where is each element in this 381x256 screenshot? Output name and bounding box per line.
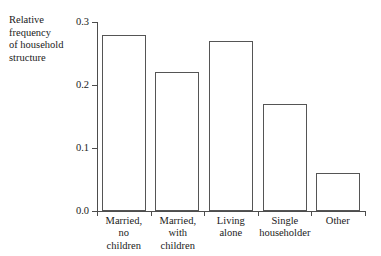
- y-axis-line: [97, 22, 98, 211]
- y-axis-tick-label: 0.2: [76, 78, 89, 91]
- x-axis-category-label: Other: [302, 215, 374, 227]
- y-axis-title-line-1: Relative: [9, 14, 81, 27]
- bar: [102, 35, 146, 211]
- x-axis-category-label-line-1: Other: [302, 215, 374, 227]
- x-axis-category-label-line-2: householder: [249, 227, 321, 239]
- y-axis-title-line-3: of household: [9, 39, 81, 52]
- y-axis-title: Relative frequency of household structur…: [9, 14, 81, 64]
- y-axis-tick: 0.1: [92, 148, 97, 149]
- y-axis-title-line-2: frequency: [9, 27, 81, 40]
- y-axis-title-line-4: structure: [9, 52, 81, 65]
- plot-area: 0.00.10.20.3: [97, 22, 365, 211]
- bar: [263, 104, 307, 211]
- bar-chart-figure: Relative frequency of household structur…: [0, 0, 381, 256]
- y-axis-tick: 0.2: [92, 85, 97, 86]
- y-axis-tick-label: 0.3: [76, 15, 89, 28]
- y-axis-tick: 0.3: [92, 22, 97, 23]
- bar: [155, 72, 199, 211]
- x-axis-category-label-line-3: children: [142, 240, 214, 252]
- bar: [209, 41, 253, 211]
- y-axis-tick-label: 0.1: [76, 141, 89, 154]
- bar: [316, 173, 360, 211]
- x-axis-line: [97, 211, 365, 212]
